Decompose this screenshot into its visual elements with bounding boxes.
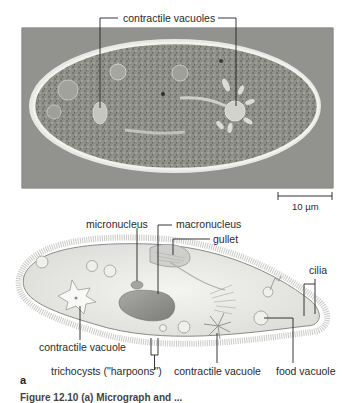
scale-bar [278, 192, 332, 200]
figure-caption: Figure 12.10 (a) Micrograph and ... [20, 392, 182, 403]
photo-food-vacuole [172, 65, 188, 81]
scale-bar-label: 10 µm [292, 201, 319, 213]
micronucleus [131, 281, 143, 289]
label-macronucleus: macronucleus [176, 218, 241, 230]
photo-food-vacuole [47, 105, 61, 119]
label-gullet: gullet [213, 233, 238, 245]
label-contractile-vacuole-left: contractile vacuole [39, 341, 126, 353]
label-food-vacuole: food vacuole [276, 365, 336, 377]
micrograph [22, 18, 333, 200]
panel-letter: a [20, 374, 26, 386]
photo-food-vacuole [58, 80, 78, 100]
label-contractile-vacuole-right: contractile vacuole [174, 365, 261, 377]
label-contractile-vacuoles: contractile vacuoles [123, 12, 215, 24]
photo-food-vacuole [110, 64, 126, 80]
label-cilia: cilia [309, 264, 327, 276]
label-trichocysts: trichocysts ("harpoons") [51, 365, 162, 377]
label-micronucleus: micronucleus [86, 218, 148, 230]
